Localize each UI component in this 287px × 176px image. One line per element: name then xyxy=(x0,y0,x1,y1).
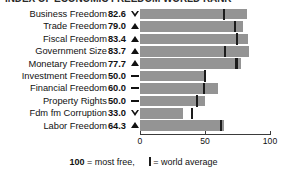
trend-down-icon xyxy=(129,8,140,20)
triangle-up-icon xyxy=(131,36,139,42)
bar-track xyxy=(140,9,270,20)
indicator-row: Investment Freedom50.0 xyxy=(0,70,287,82)
indicator-label: Labor Freedom xyxy=(0,120,107,132)
indicator-row: Business Freedom82.6 xyxy=(0,8,287,20)
bar-track xyxy=(140,96,270,107)
bar-track xyxy=(140,34,270,45)
axis-tick-label: 50 xyxy=(190,136,220,146)
indicator-score: 83.4 xyxy=(104,33,126,45)
score-bar xyxy=(140,71,205,82)
world-average-marker xyxy=(191,108,193,119)
indicator-label: Fiscal Freedom xyxy=(0,33,107,45)
world-average-marker xyxy=(236,33,238,44)
world-average-marker xyxy=(196,95,198,106)
triangle-down-outline-icon xyxy=(131,11,139,17)
indicator-row: Financial Freedom60.0 xyxy=(0,82,287,94)
indicator-row: Government Size83.7 xyxy=(0,45,287,57)
score-bar xyxy=(140,21,243,32)
page-title: INDEX OF ECONOMIC FREEDOM WORLD RANK xyxy=(5,0,257,4)
score-bar xyxy=(140,9,247,20)
indicator-label: Government Size xyxy=(0,45,107,57)
legend-score-value: 100 xyxy=(70,157,85,167)
indicator-score: 50.0 xyxy=(104,95,126,107)
indicator-label: Business Freedom xyxy=(0,8,107,20)
bar-track xyxy=(140,120,270,131)
triangle-up-icon xyxy=(131,48,139,54)
indicator-label: Fdm fm Corruption xyxy=(0,107,107,119)
world-average-marker-icon xyxy=(149,157,151,166)
legend-score-text: = most free, xyxy=(85,157,135,167)
axis-tick xyxy=(140,131,141,135)
world-average-marker xyxy=(224,46,226,57)
indicator-label: Property Rights xyxy=(0,95,107,107)
trend-up-icon xyxy=(129,20,140,32)
world-average-marker xyxy=(223,9,225,20)
chart-legend: 100 = most free,= world average xyxy=(0,156,287,168)
score-bar xyxy=(140,58,241,69)
triangle-up-icon xyxy=(131,23,139,29)
bar-track xyxy=(140,108,270,119)
indicator-row-list: Business Freedom82.6Trade Freedom79.0Fis… xyxy=(0,8,287,132)
triangle-up-icon xyxy=(131,122,139,128)
bar-track xyxy=(140,21,270,32)
world-average-marker xyxy=(204,70,206,81)
axis-tick-label: 100 xyxy=(255,136,285,146)
score-bar xyxy=(140,120,224,131)
indicator-score: 60.0 xyxy=(104,82,126,94)
indicator-score: 33.0 xyxy=(104,107,126,119)
axis-tick-label: 0 xyxy=(125,136,155,146)
axis-tick xyxy=(205,131,206,135)
triangle-down-outline-icon xyxy=(131,110,139,116)
trend-up-icon xyxy=(129,120,140,132)
indicator-score: 79.0 xyxy=(104,20,126,32)
trend-down-icon xyxy=(129,107,140,119)
indicator-score: 82.6 xyxy=(104,8,126,20)
indicator-row: Labor Freedom64.3 xyxy=(0,120,287,132)
indicator-row: Property Rights50.0 xyxy=(0,95,287,107)
dash-icon xyxy=(131,87,139,89)
indicator-row: Fdm fm Corruption33.0 xyxy=(0,107,287,119)
world-average-marker xyxy=(235,58,237,69)
indicator-score: 83.7 xyxy=(104,45,126,57)
indicator-row: Monetary Freedom77.7 xyxy=(0,58,287,70)
trend-up-icon xyxy=(129,45,140,57)
bar-track xyxy=(140,58,270,69)
dash-icon xyxy=(131,100,139,102)
world-average-marker xyxy=(220,120,222,131)
score-bar xyxy=(140,83,218,94)
trend-up-icon xyxy=(129,33,140,45)
indicator-label: Trade Freedom xyxy=(0,20,107,32)
trend-flat-icon xyxy=(129,95,140,107)
bar-track xyxy=(140,71,270,82)
axis-tick xyxy=(270,131,271,135)
world-average-marker xyxy=(203,83,205,94)
trend-flat-icon xyxy=(129,82,140,94)
economic-freedom-chart: INDEX OF ECONOMIC FREEDOM WORLD RANK Bus… xyxy=(0,0,287,176)
dash-icon xyxy=(131,75,139,77)
bar-track xyxy=(140,46,270,57)
legend-average-text: = world average xyxy=(153,157,217,167)
x-axis xyxy=(140,134,270,135)
score-bar xyxy=(140,46,249,57)
score-bar xyxy=(140,34,248,45)
indicator-label: Investment Freedom xyxy=(0,70,107,82)
score-bar xyxy=(140,108,183,119)
indicator-score: 77.7 xyxy=(104,58,126,70)
indicator-row: Fiscal Freedom83.4 xyxy=(0,33,287,45)
indicator-row: Trade Freedom79.0 xyxy=(0,20,287,32)
world-average-marker xyxy=(234,21,236,32)
indicator-score: 50.0 xyxy=(104,70,126,82)
chart-title-clipped: INDEX OF ECONOMIC FREEDOM WORLD RANK xyxy=(5,0,257,4)
indicator-label: Financial Freedom xyxy=(0,82,107,94)
bar-track xyxy=(140,83,270,94)
trend-flat-icon xyxy=(129,70,140,82)
indicator-score: 64.3 xyxy=(104,120,126,132)
triangle-up-icon xyxy=(131,60,139,66)
trend-up-icon xyxy=(129,58,140,70)
indicator-label: Monetary Freedom xyxy=(0,58,107,70)
